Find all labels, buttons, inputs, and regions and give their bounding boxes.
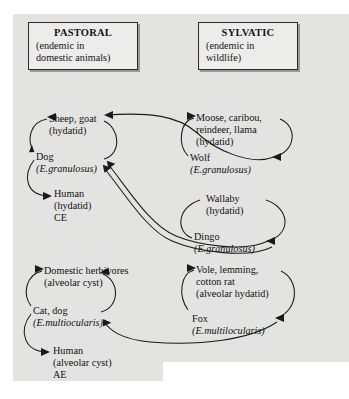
pastoral-title-box: PASTORAL (endemic in domestic animals) (28, 22, 138, 70)
arrow-vole-to-fox (277, 271, 294, 318)
node-wallaby-line2: (hydatid) (206, 205, 243, 217)
sylvatic-title-sub-line1: (endemic in (206, 40, 290, 52)
node-human-ce-line3: CE (54, 212, 91, 224)
node-sheep-goat: Sheep, goat (hydatid) (49, 113, 97, 137)
node-dog-line1: Dog (36, 151, 97, 163)
node-vole-lemming-line2: cotton rat (196, 276, 269, 288)
node-dingo: Dingo (E.granulosus) (194, 231, 255, 255)
sylvatic-title-box: SYLVATIC (endemic in wildlife) (198, 22, 298, 70)
node-human-ae-line1: Human (53, 345, 112, 357)
arrow-wallaby-to-dingo (266, 200, 285, 241)
node-wolf: Wolf (E.granulosus) (190, 152, 251, 176)
node-moose-caribou: Moose, caribou, reindeer, llama (hydatid… (196, 112, 262, 147)
node-cat-dog-line2: (E.multiocularis) (33, 317, 103, 329)
node-human-ae: Human (alveolar cyst) AE (53, 345, 112, 380)
node-domestic-herbivores-line1: Domestic herbivores (44, 265, 129, 277)
node-human-ce-line1: Human (54, 188, 91, 200)
node-sheep-goat-line2: (hydatid) (49, 125, 97, 137)
node-dog: Dog (E.granulosus) (36, 151, 97, 175)
node-wallaby-line1: Wallaby (206, 193, 243, 205)
node-dingo-line1: Dingo (194, 231, 255, 243)
node-moose-caribou-line2: reindeer, llama (196, 124, 262, 136)
node-domestic-herbivores: Domestic herbivores (alveolar cyst) (44, 265, 129, 289)
arrow-vole-fox-left (182, 270, 194, 310)
node-moose-caribou-line1: Moose, caribou, (196, 112, 262, 124)
node-vole-lemming-line1: Vole, lemming, (196, 264, 269, 276)
diagram-canvas: PASTORAL (endemic in domestic animals) S… (0, 0, 349, 399)
arrow-domherb-to-catdog (26, 271, 42, 306)
sylvatic-title-heading: SYLVATIC (206, 27, 290, 39)
node-wolf-line2: (E.granulosus) (190, 164, 251, 176)
node-vole-lemming-line3: (alveolar hydatid) (196, 288, 269, 300)
node-fox: Fox (E.multilocularis) (192, 313, 265, 337)
node-sheep-goat-line1: Sheep, goat (49, 113, 97, 125)
node-human-ae-line2: (alveolar cyst) (53, 357, 112, 369)
node-fox-line1: Fox (192, 313, 265, 325)
node-fox-line2: (E.multilocularis) (192, 325, 265, 337)
node-human-ae-line3: AE (53, 369, 112, 381)
pastoral-title-heading: PASTORAL (36, 27, 130, 39)
arrow-dog-to-sheep (104, 121, 117, 159)
node-moose-caribou-line3: (hydatid) (196, 136, 262, 148)
node-domestic-herbivores-line2: (alveolar cyst) (44, 277, 129, 289)
arrow-moose-to-wolf (274, 119, 292, 157)
node-wolf-line1: Wolf (190, 152, 251, 164)
node-vole-lemming: Vole, lemming, cotton rat (alveolar hyda… (196, 264, 269, 299)
node-cat-dog-line1: Cat, dog (33, 305, 103, 317)
pastoral-title-sub-line2: domestic animals) (36, 52, 130, 64)
node-dingo-line2: (E.granulosus) (194, 243, 255, 255)
pastoral-title-sub-line1: (endemic in (36, 40, 130, 52)
node-dog-line2: (E.granulosus) (36, 163, 97, 175)
sylvatic-title-sub-line2: wildlife) (206, 52, 290, 64)
node-wallaby: Wallaby (hydatid) (206, 193, 243, 217)
node-cat-dog: Cat, dog (E.multiocularis) (33, 305, 103, 329)
node-human-ce-line2: (hydatid) (54, 200, 91, 212)
node-human-ce: Human (hydatid) CE (54, 188, 91, 223)
